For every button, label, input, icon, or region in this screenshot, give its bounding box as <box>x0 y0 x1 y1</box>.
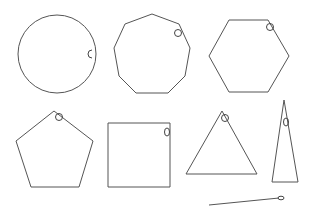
circle-shape <box>18 15 96 93</box>
angle-marker-icon <box>88 50 92 58</box>
angle-marker-icon <box>165 128 170 136</box>
hexagon-shape <box>209 20 289 92</box>
thin-triangle-shape <box>272 100 298 182</box>
triangle-shape <box>186 111 257 174</box>
line-shape <box>209 196 284 205</box>
polygon-diagram <box>0 0 312 215</box>
nonagon-shape <box>114 14 190 93</box>
angle-marker-icon <box>175 30 182 37</box>
pentagon-shape <box>16 111 93 187</box>
square-shape <box>108 123 170 187</box>
